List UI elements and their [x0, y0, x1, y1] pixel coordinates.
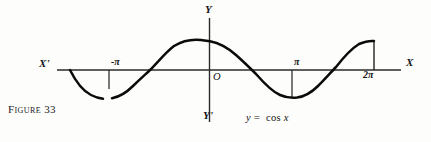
cosine-curve-segment-left — [70, 70, 103, 99]
tick-label-two-pi: 2π — [363, 70, 373, 80]
axis-label-x-negative: X' — [39, 58, 50, 69]
axis-label-x-positive: X — [406, 57, 414, 68]
axis-label-y-negative: Y' — [203, 110, 213, 121]
figure-caption-prefix: Figure — [8, 103, 41, 115]
origin-label: O — [213, 72, 221, 83]
equation-variable: x — [284, 112, 289, 123]
equation-function: cos — [266, 112, 281, 123]
equation-label: y = cos x — [246, 113, 289, 124]
figure-33-cosine-graph: X' X Y Y' O -π π 2π y = cos x Figure 33 — [0, 0, 431, 142]
cosine-curve-segment-main — [112, 40, 374, 98]
figure-caption-number: 33 — [44, 103, 56, 115]
figure-caption: Figure 33 — [8, 104, 56, 115]
tick-label-pi: π — [294, 57, 299, 67]
tick-label-neg-pi: -π — [111, 57, 120, 67]
axis-label-y-positive: Y — [205, 4, 212, 15]
